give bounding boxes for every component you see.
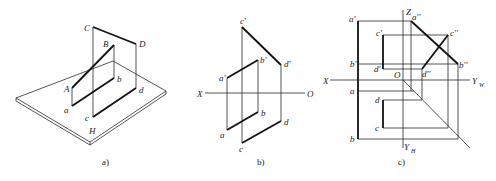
line-CD bbox=[93, 27, 136, 44]
label-b: b bbox=[350, 134, 355, 144]
label-H-subscript: H bbox=[410, 148, 416, 154]
panel-c-three-view: Z a' a'' c' c'' b' b'' d' d'' X O Y W a … bbox=[322, 7, 485, 167]
label-B: B bbox=[103, 39, 109, 49]
label-D: D bbox=[138, 39, 146, 49]
label-O: O bbox=[307, 89, 314, 99]
label-X: X bbox=[196, 89, 203, 99]
label-H: H bbox=[88, 126, 96, 136]
label-W-subscript: W bbox=[479, 82, 485, 88]
label-a-double-prime: a'' bbox=[412, 12, 421, 22]
label-d: d bbox=[284, 117, 289, 127]
label-Y-W: Y bbox=[472, 76, 478, 86]
label-d-double-prime: d'' bbox=[422, 69, 431, 79]
line-cd bbox=[93, 88, 136, 117]
panel-a-isometric: C D B A a b c d H a) bbox=[16, 23, 166, 167]
label-a: a bbox=[64, 105, 69, 115]
label-a: a bbox=[220, 130, 225, 140]
label-c-prime: c' bbox=[376, 28, 383, 38]
label-c: c bbox=[239, 144, 243, 154]
caption-c: c) bbox=[398, 157, 405, 167]
label-a-prime: a' bbox=[219, 73, 227, 83]
label-d-prime: d' bbox=[374, 64, 382, 74]
label-d-prime: d' bbox=[284, 59, 292, 69]
label-d: d bbox=[375, 95, 380, 105]
label-a-prime: a' bbox=[349, 14, 357, 24]
label-X: X bbox=[322, 76, 329, 86]
label-b-prime: b' bbox=[260, 55, 268, 65]
label-b-prime: b' bbox=[350, 59, 358, 69]
label-C: C bbox=[84, 23, 91, 33]
45-degree-line bbox=[403, 80, 470, 148]
label-c: c bbox=[375, 123, 379, 133]
label-c-prime: c' bbox=[240, 16, 247, 26]
projection-figure: C D B A a b c d H a) c' d' a' b' a b c d… bbox=[0, 0, 496, 181]
label-a: a bbox=[350, 86, 355, 96]
label-b: b bbox=[261, 108, 266, 118]
caption-a: a) bbox=[102, 157, 109, 167]
label-b-double-prime: b'' bbox=[459, 60, 468, 70]
label-A: A bbox=[63, 84, 70, 94]
label-Y-H: Y bbox=[404, 142, 410, 152]
caption-b: b) bbox=[257, 157, 265, 167]
label-b: b bbox=[117, 74, 122, 84]
label-c-double-prime: c'' bbox=[450, 28, 459, 38]
label-d: d bbox=[139, 85, 144, 95]
panel-b-two-view: c' d' a' b' a b c d X O b) bbox=[196, 16, 314, 167]
label-c: c bbox=[85, 113, 89, 123]
label-O: O bbox=[394, 70, 401, 80]
